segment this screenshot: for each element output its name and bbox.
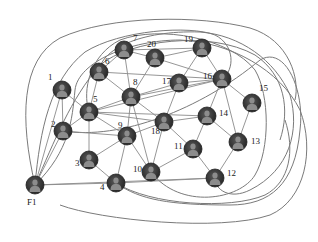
node-11[interactable]: 11 xyxy=(174,140,202,158)
node-label: F1 xyxy=(27,197,37,207)
node-label: 9 xyxy=(118,120,123,130)
node-label: 17 xyxy=(162,76,172,86)
node-10[interactable]: 10 xyxy=(133,163,160,181)
node-label: 10 xyxy=(133,164,143,174)
node-F1[interactable]: F1 xyxy=(26,176,44,207)
node-label: 1 xyxy=(48,72,53,82)
node-label: 15 xyxy=(259,83,269,93)
node-1[interactable]: 1 xyxy=(48,72,71,99)
node-17[interactable]: 17 xyxy=(162,74,188,92)
node-3[interactable]: 3 xyxy=(75,151,98,169)
node-2[interactable]: 2 xyxy=(51,119,72,140)
node-label: 3 xyxy=(75,158,80,168)
node-label: 8 xyxy=(133,77,138,87)
node-label: 14 xyxy=(219,108,229,118)
edge-2-9 xyxy=(63,131,127,136)
node-label: 18 xyxy=(151,126,161,136)
node-label: 4 xyxy=(100,182,105,192)
node-5[interactable]: 5 xyxy=(80,94,98,121)
node-19[interactable]: 19 xyxy=(184,34,211,57)
node-20[interactable]: 20 xyxy=(146,39,164,67)
node-label: 2 xyxy=(51,119,56,129)
node-label: 7 xyxy=(133,33,138,43)
node-13[interactable]: 13 xyxy=(229,133,261,151)
node-label: 20 xyxy=(147,39,157,49)
node-label: 12 xyxy=(227,168,236,178)
node-12[interactable]: 12 xyxy=(206,168,236,187)
node-label: 13 xyxy=(251,136,261,146)
node-label: 5 xyxy=(93,94,98,104)
node-label: 11 xyxy=(174,141,183,151)
node-label: 16 xyxy=(203,71,213,81)
node-label: 19 xyxy=(184,34,194,44)
node-14[interactable]: 14 xyxy=(198,107,229,125)
network-diagram: 1234567891011121314151617181920F1 xyxy=(0,0,318,242)
node-16[interactable]: 16 xyxy=(203,70,231,88)
edge-5-16 xyxy=(89,79,222,112)
node-4[interactable]: 4 xyxy=(100,174,125,192)
node-8[interactable]: 8 xyxy=(122,77,140,106)
node-18[interactable]: 18 xyxy=(151,113,173,136)
node-9[interactable]: 9 xyxy=(118,120,136,145)
node-label: 6 xyxy=(105,56,110,66)
